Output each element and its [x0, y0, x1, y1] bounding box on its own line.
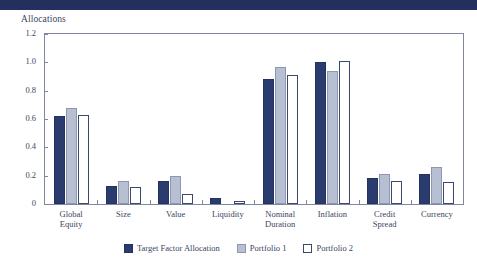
bar — [106, 186, 117, 204]
bar — [182, 194, 193, 204]
legend-label: Portfolio 2 — [316, 243, 353, 253]
bar-group — [306, 34, 358, 204]
bar — [379, 174, 390, 204]
y-axis-tick-label: 0.2 — [0, 171, 36, 180]
bar — [391, 181, 402, 204]
bar-group — [202, 34, 254, 204]
y-axis-tick-mark — [44, 204, 48, 205]
chart-legend: Target Factor AllocationPortfolio 1Portf… — [0, 243, 477, 253]
chart-title: Allocations — [21, 14, 66, 24]
bar — [443, 182, 454, 204]
x-axis-label: Value — [150, 209, 202, 219]
y-axis-tick-label: 0.4 — [0, 142, 36, 151]
x-axis-label-line: Duration — [254, 219, 306, 229]
x-axis-label: CreditSpread — [359, 209, 411, 229]
bar — [118, 181, 129, 204]
legend-item[interactable]: Target Factor Allocation — [124, 243, 220, 253]
x-axis-label-line: Liquidity — [202, 209, 254, 219]
x-axis-label-line: Value — [150, 209, 202, 219]
bar — [130, 187, 141, 204]
bar-group — [359, 34, 411, 204]
chart-page: Allocations 00.20.40.60.81.01.2 GlobalEq… — [0, 0, 477, 277]
bar — [170, 176, 181, 204]
x-axis-label-line: Inflation — [306, 209, 358, 219]
y-axis-tick-label: 0 — [0, 199, 36, 208]
group-separator — [254, 200, 255, 204]
bar-group-bars — [359, 34, 411, 204]
bar — [315, 62, 326, 204]
bar — [210, 198, 221, 204]
legend-swatch — [124, 244, 133, 253]
bar-group-bars — [411, 34, 463, 204]
group-separator — [359, 200, 360, 204]
bar — [78, 115, 89, 204]
x-axis-label: Size — [97, 209, 149, 219]
x-axis-label: Inflation — [306, 209, 358, 219]
group-separator — [97, 200, 98, 204]
group-separator — [411, 200, 412, 204]
x-axis-label: Liquidity — [202, 209, 254, 219]
top-banner — [0, 0, 477, 10]
bar — [327, 71, 338, 204]
x-axis-label-line: Credit — [359, 209, 411, 219]
bar — [275, 67, 286, 204]
bar — [287, 75, 298, 204]
bar-group-bars — [150, 34, 202, 204]
bar-group — [254, 34, 306, 204]
bar — [431, 167, 442, 204]
legend-swatch — [303, 244, 312, 253]
bar — [339, 61, 350, 204]
group-separator — [202, 200, 203, 204]
bar — [234, 201, 245, 204]
bar-groups — [45, 34, 463, 204]
x-axis-label-line: Global — [45, 209, 97, 219]
group-separator — [306, 200, 307, 204]
x-axis-label-line: Equity — [45, 219, 97, 229]
x-axis-label: GlobalEquity — [45, 209, 97, 229]
x-axis-label-line: Size — [97, 209, 149, 219]
bar — [54, 116, 65, 204]
legend-label: Target Factor Allocation — [137, 243, 220, 253]
bar-group — [411, 34, 463, 204]
x-axis-label-line: Spread — [359, 219, 411, 229]
group-separator — [150, 200, 151, 204]
bar-group-bars — [306, 34, 358, 204]
bar-group — [45, 34, 97, 204]
y-axis-tick-label: 1.2 — [0, 29, 36, 38]
legend-label: Portfolio 1 — [250, 243, 287, 253]
x-axis-label-line: Nominal — [254, 209, 306, 219]
bar — [367, 178, 378, 204]
bar — [158, 181, 169, 204]
legend-swatch — [237, 244, 246, 253]
y-axis-tick-label: 0.6 — [0, 114, 36, 123]
bar-group-bars — [202, 34, 254, 204]
bar-group-bars — [97, 34, 149, 204]
bar-group-bars — [254, 34, 306, 204]
x-axis-label-line: Currency — [411, 209, 463, 219]
legend-item[interactable]: Portfolio 2 — [303, 243, 353, 253]
bar-group — [97, 34, 149, 204]
bar-group-bars — [45, 34, 97, 204]
y-axis-tick-label: 0.8 — [0, 86, 36, 95]
y-axis-tick-label: 1.0 — [0, 57, 36, 66]
x-axis-label: Currency — [411, 209, 463, 219]
bar — [419, 174, 430, 204]
bar — [263, 79, 274, 204]
bar-group — [150, 34, 202, 204]
x-axis-label: NominalDuration — [254, 209, 306, 229]
bar — [66, 108, 77, 204]
legend-item[interactable]: Portfolio 1 — [237, 243, 287, 253]
